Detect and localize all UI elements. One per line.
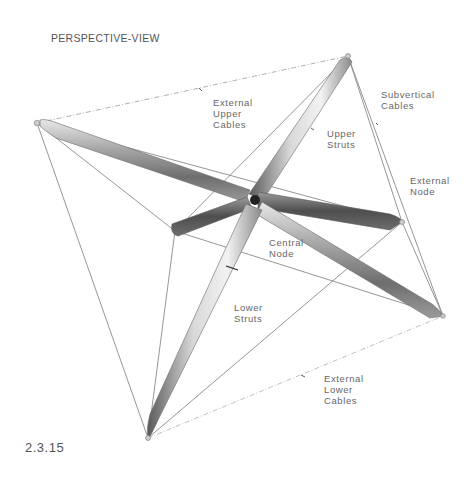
bottom-node [146, 436, 151, 441]
label-central-node: Central Node [269, 237, 304, 259]
figure-number: 2.3.15 [25, 440, 64, 455]
upper-left-strut [40, 120, 250, 203]
central-node [250, 195, 260, 205]
label-external-upper-cables: External Upper Cables [213, 97, 253, 130]
label-lower-struts: Lower Struts [234, 302, 263, 324]
view-title: PERSPECTIVE-VIEW [51, 32, 160, 44]
label-subvertical-cables: Subvertical Cables [381, 89, 435, 111]
top-node [346, 54, 351, 59]
external-node [400, 220, 405, 225]
tensegrity-diagram [0, 0, 472, 482]
far-right-node [441, 314, 446, 319]
label-external-lower-cables: External Lower Cables [324, 373, 364, 406]
left-node [34, 120, 40, 126]
label-external-node: External Node [410, 175, 450, 197]
tensegrity-perspective-figure: PERSPECTIVE-VIEW External Upper Cables S… [0, 0, 472, 482]
external-upper-cables [37, 56, 348, 123]
label-upper-struts: Upper Struts [327, 128, 356, 150]
